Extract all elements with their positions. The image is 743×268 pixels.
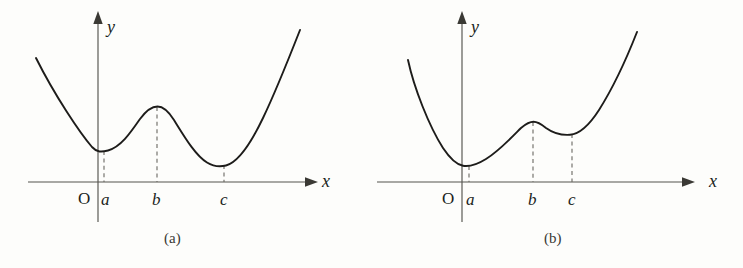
curve-b: [408, 32, 637, 166]
curve-a: [36, 30, 300, 166]
origin-label-a: O: [78, 190, 90, 207]
x-axis-arrowhead-a: [305, 177, 318, 187]
x-axis-label-a: x: [322, 172, 330, 190]
y-axis-label-a: y: [107, 18, 115, 36]
y-axis-arrowhead-a: [93, 11, 102, 24]
x-axis-arrowhead-b: [682, 177, 695, 187]
panel-caption-a: (a): [164, 231, 181, 246]
x-axis-label-b: x: [709, 172, 717, 190]
panel-caption-b: (b): [544, 231, 562, 246]
tick-label-b: b: [528, 191, 537, 208]
graph-panel-a: y x O a b c (a): [0, 0, 372, 268]
figure-root: y x O a b c (a) y x O a b c (b): [0, 0, 743, 268]
graph-panel-b: y x O a b c (b): [371, 0, 743, 268]
panel-a-canvas: [0, 0, 372, 268]
tick-label-c: c: [220, 191, 228, 208]
tick-label-a: a: [101, 191, 110, 208]
y-axis-arrowhead-b: [457, 11, 466, 24]
origin-label-b: O: [442, 190, 454, 207]
tick-label-b: b: [152, 191, 161, 208]
y-axis-label-b: y: [471, 18, 479, 36]
tick-label-a: a: [466, 191, 475, 208]
panel-b-canvas: [371, 0, 743, 268]
tick-label-c: c: [568, 191, 576, 208]
